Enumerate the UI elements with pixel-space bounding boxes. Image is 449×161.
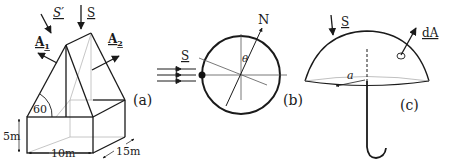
width-label: 10m bbox=[51, 147, 76, 160]
sun-rays bbox=[157, 67, 196, 84]
umbrella-handle bbox=[367, 81, 386, 158]
theta-label: θ bbox=[242, 53, 248, 64]
angle-label: 60 bbox=[33, 103, 47, 116]
depth-dimension-upper bbox=[126, 139, 134, 144]
depth-label: 15m bbox=[116, 145, 141, 158]
normal-a2-arrow bbox=[92, 56, 119, 70]
hidden-edges bbox=[27, 34, 125, 153]
radius-label: a bbox=[347, 69, 354, 82]
figure-svg: 60 S′ S A1 A2 5m 10m 15m (a) bbox=[0, 0, 449, 161]
physics-figure: 60 S′ S A1 A2 5m 10m 15m (a) bbox=[0, 0, 449, 161]
panel-b-globe: S N θ (b) bbox=[157, 12, 303, 114]
area1-label: A1 bbox=[34, 35, 50, 51]
panel-b-caption: (b) bbox=[283, 92, 303, 108]
area2-label: A2 bbox=[107, 32, 123, 48]
area-element-label: dA bbox=[422, 26, 439, 40]
sun-label-a: S bbox=[87, 6, 95, 20]
sun-label-b: S bbox=[181, 49, 189, 63]
sun-label-c: S bbox=[341, 15, 349, 29]
normal-a1-arrow bbox=[38, 53, 57, 63]
panel-c-umbrella: a S dA (c) bbox=[305, 15, 439, 158]
panel-a-caption: (a) bbox=[133, 92, 152, 108]
panel-c-caption: (c) bbox=[400, 97, 419, 113]
globe-axes bbox=[199, 34, 287, 100]
height-label: 5m bbox=[3, 130, 21, 143]
sun-prime-label: S′ bbox=[53, 6, 64, 20]
north-label: N bbox=[258, 12, 269, 27]
sun-arrow-c bbox=[331, 15, 333, 35]
sun-prime-arrow bbox=[41, 14, 51, 33]
depth-dimension-lower bbox=[103, 151, 114, 158]
north-axis-arrow bbox=[226, 28, 262, 106]
location-dot bbox=[199, 72, 206, 79]
panel-a-house: 60 S′ S A1 A2 5m 10m 15m (a) bbox=[3, 5, 152, 160]
